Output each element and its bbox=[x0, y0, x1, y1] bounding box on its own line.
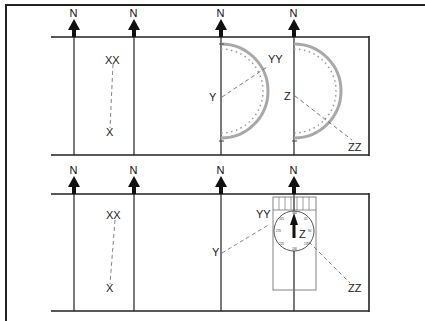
svg-text:315: 315 bbox=[279, 217, 284, 221]
top-panel: N N N N XX X bbox=[51, 7, 369, 156]
bearing-line-y bbox=[222, 67, 267, 97]
bearing-line-y bbox=[222, 224, 270, 253]
north-arrow-icon bbox=[68, 19, 80, 30]
north-label: N bbox=[130, 164, 138, 176]
north-label: N bbox=[217, 164, 225, 176]
north-label: N bbox=[290, 164, 298, 176]
north-arrow-icon bbox=[128, 176, 140, 187]
svg-text:225: 225 bbox=[279, 242, 284, 246]
protractor-1 bbox=[219, 44, 268, 141]
point-y-label: Y bbox=[212, 246, 220, 258]
north-label: N bbox=[70, 164, 78, 176]
grid-line-2: N bbox=[128, 164, 140, 311]
protractor-2 bbox=[292, 44, 341, 141]
north-arrow-icon bbox=[288, 176, 300, 187]
bearing-line-z bbox=[295, 96, 352, 140]
north-arrow-icon bbox=[215, 19, 227, 30]
point-zz-label: ZZ bbox=[348, 141, 362, 153]
point-zz-label: ZZ bbox=[348, 282, 362, 294]
north-label: N bbox=[290, 7, 298, 19]
bearing-diagram: N N N N XX X bbox=[0, 0, 425, 321]
grid-line-2: N bbox=[128, 7, 140, 155]
bottom-panel: N N N N XX X bbox=[51, 164, 369, 312]
point-z-label: Z bbox=[284, 90, 291, 102]
grid-line-1: N bbox=[68, 164, 80, 311]
svg-text:90: 90 bbox=[308, 229, 312, 233]
north-arrow-icon bbox=[288, 19, 300, 30]
north-arrow-icon bbox=[128, 19, 140, 30]
north-arrow-icon bbox=[68, 176, 80, 187]
point-y-label: Y bbox=[209, 91, 217, 103]
bearing-line-x bbox=[110, 64, 113, 128]
north-arrow-icon bbox=[215, 176, 227, 187]
svg-text:135: 135 bbox=[304, 242, 309, 246]
svg-text:180: 180 bbox=[292, 247, 297, 251]
point-x-label: X bbox=[106, 282, 114, 294]
north-label: N bbox=[70, 7, 78, 19]
north-label: N bbox=[217, 7, 225, 19]
point-z-label: Z bbox=[299, 228, 306, 240]
point-yy-label: YY bbox=[256, 208, 271, 220]
point-yy-label: YY bbox=[268, 53, 283, 65]
bearing-line-x bbox=[110, 220, 115, 284]
grid-line-3: N bbox=[215, 7, 227, 155]
grid-line-1: N bbox=[68, 7, 80, 155]
bearing-line-z bbox=[309, 242, 350, 283]
point-xx-label: XX bbox=[106, 209, 121, 221]
point-xx-label: XX bbox=[105, 54, 120, 66]
grid-line-4: N bbox=[288, 7, 300, 155]
grid-line-3: N bbox=[215, 164, 227, 311]
svg-text:360: 360 bbox=[292, 211, 297, 215]
svg-text:270: 270 bbox=[276, 229, 281, 233]
point-x-label: X bbox=[106, 126, 114, 138]
svg-text:45: 45 bbox=[304, 217, 308, 221]
north-label: N bbox=[130, 7, 138, 19]
